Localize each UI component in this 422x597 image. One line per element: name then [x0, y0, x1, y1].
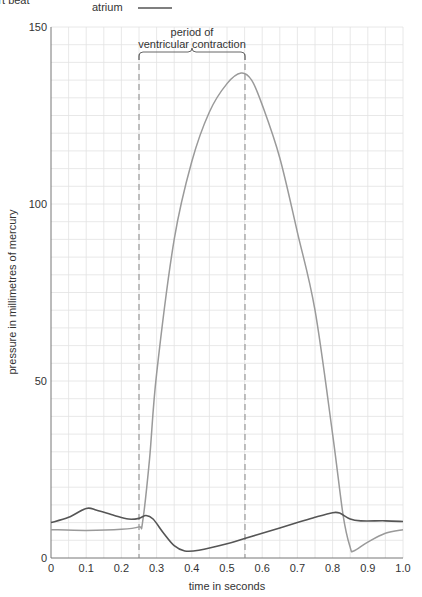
y-tick-label: 0 — [41, 552, 47, 564]
x-tick-label: 0.7 — [290, 562, 305, 574]
x-tick-label: 0 — [48, 562, 54, 574]
annotation-line1: period of — [171, 26, 215, 38]
y-tick-label: 50 — [35, 375, 47, 387]
x-tick-label: 1.0 — [395, 562, 410, 574]
x-tick-label: 0.1 — [79, 562, 94, 574]
grid — [51, 27, 403, 558]
pressure-chart: heart beat atrium 00.10.20.30.40.50.60.7… — [0, 0, 422, 597]
y-axis-label: pressure in millimetres of mercury — [6, 209, 18, 375]
x-tick-label: 0.9 — [360, 562, 375, 574]
x-tick-label: 0.5 — [219, 562, 234, 574]
x-tick-label: 0.6 — [255, 562, 270, 574]
y-tick-label: 150 — [29, 21, 47, 33]
y-tick-labels: 050100150 — [29, 21, 47, 564]
x-axis-label: time in seconds — [189, 580, 266, 592]
x-tick-label: 0.8 — [325, 562, 340, 574]
legend-label-atrium: atrium — [92, 1, 123, 13]
x-tick-label: 0.4 — [184, 562, 199, 574]
x-tick-label: 0.2 — [114, 562, 129, 574]
x-tick-labels: 00.10.20.30.40.50.60.70.80.91.0 — [48, 562, 411, 574]
x-tick-label: 0.3 — [149, 562, 164, 574]
legend: atrium — [92, 1, 172, 13]
y-tick-label: 100 — [29, 198, 47, 210]
annotation-line2: ventricular contraction — [138, 38, 246, 50]
cutoff-header-text: heart beat — [0, 0, 30, 6]
